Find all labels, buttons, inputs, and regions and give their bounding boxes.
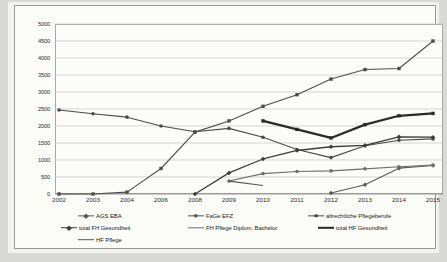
data-point-marker bbox=[261, 157, 266, 162]
data-point-marker bbox=[363, 167, 367, 171]
x-tick-label: 2012 bbox=[324, 196, 338, 203]
data-point-marker bbox=[261, 105, 264, 108]
x-tick-label: 2015 bbox=[426, 196, 440, 203]
series-2 bbox=[57, 108, 435, 159]
data-point-marker bbox=[159, 124, 163, 128]
series-line bbox=[59, 41, 433, 194]
data-point-marker bbox=[397, 135, 402, 140]
data-point-marker bbox=[227, 127, 231, 131]
legend-label: total HF Gesundheit bbox=[336, 225, 387, 231]
x-tick-label: 2008 bbox=[188, 196, 202, 203]
y-axis-labels: 0500100015002000250030003500400045005000 bbox=[15, 24, 53, 194]
x-tick-label: 2004 bbox=[120, 196, 134, 203]
legend-row: AGS EBAFaGe EFZaltrechtliche Pflegeberuf… bbox=[33, 210, 433, 221]
x-tick-label: 2003 bbox=[86, 196, 100, 203]
y-tick-label: 4000 bbox=[38, 55, 50, 61]
x-tick-label: 2006 bbox=[154, 196, 168, 203]
x-tick-label: 2009 bbox=[222, 196, 236, 203]
data-point-marker bbox=[159, 167, 162, 170]
legend-key-icon bbox=[308, 212, 324, 220]
legend-row: HF Pflege bbox=[33, 234, 433, 245]
legend-row: total FH GesundheitFH Pflege Diplom, Bac… bbox=[33, 222, 433, 233]
legend-item[interactable]: total HF Gesundheit bbox=[318, 222, 387, 233]
data-point-marker bbox=[329, 136, 332, 139]
y-tick-label: 1500 bbox=[38, 140, 50, 146]
data-point-marker bbox=[397, 114, 400, 117]
chart-container: 0500100015002000250030003500400045005000… bbox=[14, 5, 436, 249]
y-tick-label: 2000 bbox=[38, 123, 50, 129]
data-point-marker bbox=[363, 68, 366, 71]
data-point-marker bbox=[329, 169, 333, 173]
legend-key-icon bbox=[78, 212, 94, 220]
series-line bbox=[229, 181, 263, 185]
series-line bbox=[59, 110, 433, 158]
legend-label: FaGe EFZ bbox=[206, 213, 233, 219]
data-point-marker bbox=[227, 119, 230, 122]
x-tick-label: 2002 bbox=[52, 196, 66, 203]
y-tick-label: 1000 bbox=[38, 157, 50, 163]
x-tick-label: 2013 bbox=[358, 196, 372, 203]
legend-label: HF Pflege bbox=[96, 237, 122, 243]
data-point-marker bbox=[295, 128, 298, 131]
legend-item[interactable]: total FH Gesundheit bbox=[61, 222, 130, 233]
data-point-marker bbox=[397, 67, 400, 70]
y-tick-label: 4500 bbox=[38, 38, 50, 44]
data-point-marker bbox=[193, 130, 197, 134]
legend-item[interactable]: FaGe EFZ bbox=[188, 210, 233, 221]
series-line bbox=[263, 113, 433, 137]
series-1 bbox=[57, 39, 434, 195]
legend-label: FH Pflege Diplom, Bachelor bbox=[206, 225, 277, 231]
plot-area bbox=[55, 24, 443, 194]
data-point-marker bbox=[261, 172, 265, 176]
legend-key-icon bbox=[188, 224, 204, 232]
legend-item[interactable]: altrechtliche Pflegeberufe bbox=[308, 210, 391, 221]
data-point-marker bbox=[363, 143, 368, 148]
x-tick-label: 2014 bbox=[392, 196, 406, 203]
y-tick-label: 500 bbox=[41, 174, 50, 180]
data-point-marker bbox=[397, 165, 401, 169]
data-point-marker bbox=[363, 183, 368, 188]
y-tick-label: 3500 bbox=[38, 72, 50, 78]
legend-item[interactable]: HF Pflege bbox=[78, 234, 122, 245]
x-tick-label: 2010 bbox=[256, 196, 270, 203]
legend-key-icon bbox=[318, 224, 334, 232]
series-6 bbox=[229, 181, 263, 185]
legend-key-icon bbox=[78, 236, 94, 244]
y-tick-label: 2500 bbox=[38, 106, 50, 112]
data-point-marker bbox=[329, 156, 333, 160]
legend-label: altrechtliche Pflegeberufe bbox=[326, 213, 391, 219]
data-point-marker bbox=[57, 108, 61, 112]
data-point-marker bbox=[431, 112, 434, 115]
legend-item[interactable]: FH Pflege Diplom, Bachelor bbox=[188, 222, 277, 233]
legend-label: total FH Gesundheit bbox=[79, 225, 130, 231]
data-point-marker bbox=[431, 39, 434, 42]
y-tick-label: 0 bbox=[47, 191, 50, 197]
series-5 bbox=[261, 112, 434, 140]
data-point-marker bbox=[329, 191, 334, 196]
data-point-marker bbox=[329, 144, 334, 149]
data-series-layer bbox=[55, 24, 443, 194]
data-point-marker bbox=[91, 112, 95, 116]
x-tick-label: 2011 bbox=[290, 196, 303, 203]
y-tick-label: 5000 bbox=[38, 21, 50, 27]
data-point-marker bbox=[261, 135, 265, 139]
data-point-marker bbox=[295, 170, 299, 174]
x-axis-labels: 2002200320042006200820092010201120122013… bbox=[55, 196, 443, 208]
legend-item[interactable]: AGS EBA bbox=[78, 210, 122, 221]
data-point-marker bbox=[295, 93, 298, 96]
series-4 bbox=[227, 163, 435, 183]
data-point-marker bbox=[363, 123, 366, 126]
chart-legend: AGS EBAFaGe EFZaltrechtliche Pflegeberuf… bbox=[33, 210, 433, 248]
data-point-marker bbox=[125, 190, 128, 193]
data-point-marker bbox=[329, 77, 332, 80]
data-point-marker bbox=[431, 163, 435, 167]
y-tick-label: 3000 bbox=[38, 89, 50, 95]
legend-key-icon bbox=[61, 224, 77, 232]
legend-label: AGS EBA bbox=[96, 213, 122, 219]
data-point-marker bbox=[125, 115, 129, 119]
series-line bbox=[195, 137, 433, 194]
data-point-marker bbox=[261, 119, 264, 122]
legend-key-icon bbox=[188, 212, 204, 220]
screenshot-page: 0500100015002000250030003500400045005000… bbox=[0, 0, 447, 262]
